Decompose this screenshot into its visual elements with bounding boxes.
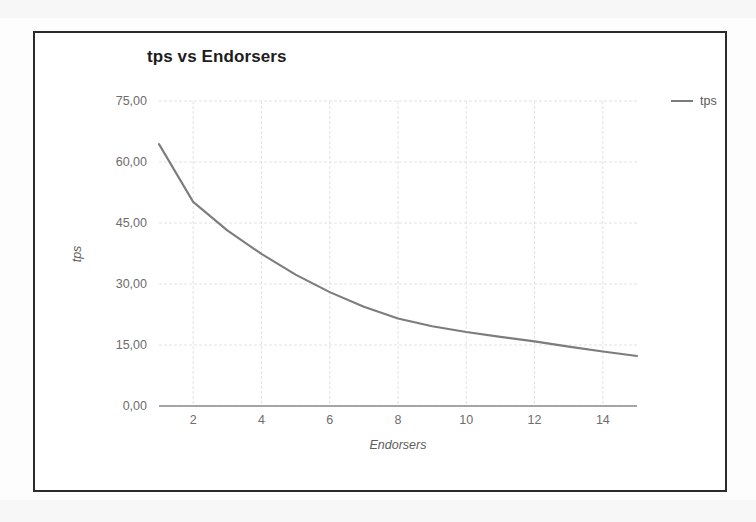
y-axis-tick-label: 75,00 <box>116 94 147 108</box>
y-axis-tick-label: 15,00 <box>116 338 147 352</box>
chart-body: tps vs Endorsers tps 0,0015,0030,0045,00… <box>35 33 725 490</box>
chart-title: tps vs Endorsers <box>147 47 287 67</box>
legend-line-swatch <box>671 100 693 102</box>
gridlines-vertical <box>193 101 603 406</box>
scan-smudge-top <box>0 0 756 18</box>
x-axis-tick-label: 2 <box>190 413 197 427</box>
x-axis-title: Endorsers <box>370 438 427 452</box>
x-axis-tick-label: 6 <box>326 413 333 427</box>
legend-label-tps: tps <box>700 94 717 108</box>
chart-legend: tps <box>671 94 717 108</box>
y-axis-title: tps <box>70 245 84 262</box>
x-axis-tick-label: 8 <box>395 413 402 427</box>
y-axis-tick-label: 0,00 <box>123 399 147 413</box>
plot-svg <box>159 101 637 406</box>
series-line-tps <box>159 144 637 356</box>
x-axis-tick-label: 10 <box>459 413 473 427</box>
x-axis-tick-label: 4 <box>258 413 265 427</box>
chart-frame: tps vs Endorsers tps 0,0015,0030,0045,00… <box>33 31 727 492</box>
x-axis-tick-label: 12 <box>528 413 542 427</box>
y-axis-tick-label: 45,00 <box>116 216 147 230</box>
x-axis-tick-label: 14 <box>596 413 610 427</box>
plot-area: 0,0015,0030,0045,0060,0075,00 2468101214… <box>159 101 637 406</box>
screenshot-canvas: tps vs Endorsers tps 0,0015,0030,0045,00… <box>0 0 756 522</box>
scan-smudge-bottom <box>0 500 756 522</box>
y-axis-tick-label: 60,00 <box>116 155 147 169</box>
y-axis-tick-label: 30,00 <box>116 277 147 291</box>
